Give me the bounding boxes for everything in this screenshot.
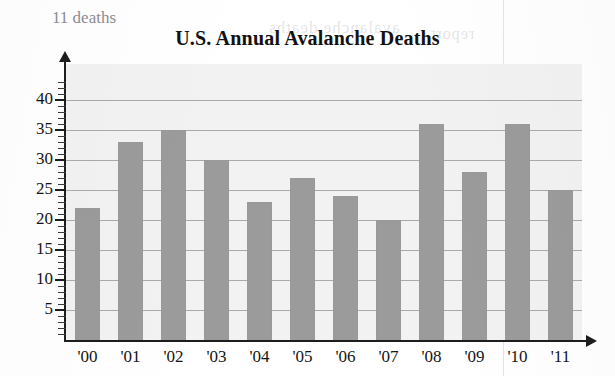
- y-axis-major-tick: [55, 309, 66, 311]
- bar: [75, 208, 100, 340]
- y-axis-tick-label: 20: [5, 209, 53, 229]
- y-axis-minor-tick: [58, 118, 66, 119]
- y-axis-arrow-icon: [59, 51, 71, 62]
- y-axis-minor-tick: [58, 274, 66, 275]
- bar: [118, 142, 143, 340]
- bar: [204, 160, 229, 340]
- y-axis-minor-tick: [58, 214, 66, 215]
- y-axis-major-tick: [55, 129, 66, 131]
- y-axis-minor-tick: [58, 202, 66, 203]
- bar: [505, 124, 530, 340]
- y-axis-tick-label: 5: [5, 299, 53, 319]
- x-axis-line: [64, 340, 588, 342]
- y-axis-minor-tick: [58, 334, 66, 335]
- y-axis-tick-label: 35: [5, 119, 53, 139]
- chart-title: U.S. Annual Avalanche Deaths: [0, 27, 615, 50]
- bar: [462, 172, 487, 340]
- y-axis-minor-tick: [58, 166, 66, 167]
- bar: [333, 196, 358, 340]
- y-axis-tick-label: 40: [5, 89, 53, 109]
- y-axis-minor-tick: [58, 322, 66, 323]
- y-axis-minor-tick: [58, 268, 66, 269]
- y-axis-minor-tick: [58, 304, 66, 305]
- bar-chart: 510152025303540 '00'01'02'03'04'05'06'07…: [0, 0, 615, 376]
- y-axis-minor-tick: [58, 136, 66, 137]
- y-axis-minor-tick: [58, 124, 66, 125]
- y-axis-major-tick: [55, 189, 66, 191]
- y-axis-minor-tick: [58, 184, 66, 185]
- y-axis-minor-tick: [58, 316, 66, 317]
- y-axis-minor-tick: [58, 82, 66, 83]
- y-axis-minor-tick: [58, 172, 66, 173]
- bars-layer: [0, 0, 615, 376]
- y-axis-minor-tick: [58, 196, 66, 197]
- x-axis-tick-label: '11: [536, 347, 586, 367]
- bar: [247, 202, 272, 340]
- bar: [548, 190, 573, 340]
- y-axis-minor-tick: [58, 94, 66, 95]
- bar: [419, 124, 444, 340]
- y-axis-tick-labels: 510152025303540: [0, 0, 53, 376]
- y-axis-major-tick: [55, 99, 66, 101]
- y-axis-minor-tick: [58, 286, 66, 287]
- y-axis-minor-tick: [58, 328, 66, 329]
- y-axis-minor-tick: [58, 244, 66, 245]
- y-axis-minor-tick: [58, 88, 66, 89]
- deaths-note-label: 11 deaths: [52, 8, 116, 28]
- x-axis-arrow-icon: [586, 335, 597, 347]
- y-axis-minor-tick: [58, 208, 66, 209]
- y-axis-major-tick: [55, 159, 66, 161]
- y-axis-minor-tick: [58, 232, 66, 233]
- y-axis-minor-tick: [58, 298, 66, 299]
- y-axis-minor-tick: [58, 112, 66, 113]
- y-axis-minor-tick: [58, 148, 66, 149]
- y-axis-minor-tick: [58, 256, 66, 257]
- y-axis-minor-tick: [58, 292, 66, 293]
- y-axis-major-tick: [55, 219, 66, 221]
- bar: [290, 178, 315, 340]
- y-axis-minor-tick: [58, 154, 66, 155]
- y-axis-minor-tick: [58, 238, 66, 239]
- y-axis-minor-tick: [58, 226, 66, 227]
- y-axis-major-tick: [55, 279, 66, 281]
- y-axis-minor-tick: [58, 142, 66, 143]
- x-axis-tick-labels: '00'01'02'03'04'05'06'07'08'09'10'11: [0, 347, 615, 375]
- y-axis-tick-label: 15: [5, 239, 53, 259]
- y-axis-tick-label: 30: [5, 149, 53, 169]
- y-axis-tick-label: 25: [5, 179, 53, 199]
- bar: [376, 220, 401, 340]
- y-axis-tick-label: 10: [5, 269, 53, 289]
- bar: [161, 130, 186, 340]
- y-axis-minor-tick: [58, 178, 66, 179]
- y-axis-minor-tick: [58, 106, 66, 107]
- y-axis-minor-tick: [58, 262, 66, 263]
- y-axis-major-tick: [55, 249, 66, 251]
